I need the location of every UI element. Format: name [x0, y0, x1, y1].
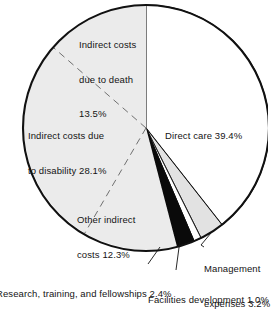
slice-label-line: Other indirect	[77, 214, 135, 226]
slice-label-line: Research, training, and fellowships 2.4%	[0, 288, 172, 300]
slice-label-direct-care: Direct care 39.4%	[165, 107, 242, 165]
slice-label-line: to disability 28.1%	[28, 165, 106, 177]
slice-label-line: Indirect costs	[79, 39, 136, 51]
slice-label-line: Direct care 39.4%	[165, 130, 242, 142]
slice-label-research-training-fellowships: Research, training, and fellowships 2.4%	[0, 265, 172, 313]
slice-label-line: costs 12.3%	[77, 249, 135, 261]
slice-label-indirect-costs-disability: Indirect costs due to disability 28.1%	[28, 107, 106, 199]
slice-label-line: Indirect costs due	[28, 130, 106, 142]
slice-label-line: due to death	[79, 74, 136, 86]
